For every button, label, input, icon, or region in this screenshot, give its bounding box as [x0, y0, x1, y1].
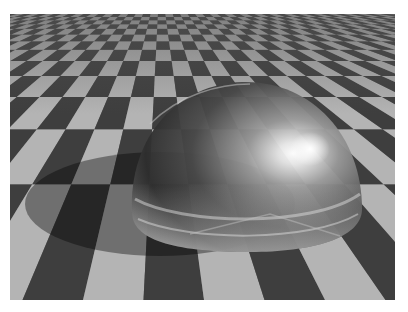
checkerboard-scene [10, 14, 395, 300]
specular-highlight [290, 132, 330, 166]
render-image [10, 14, 395, 300]
